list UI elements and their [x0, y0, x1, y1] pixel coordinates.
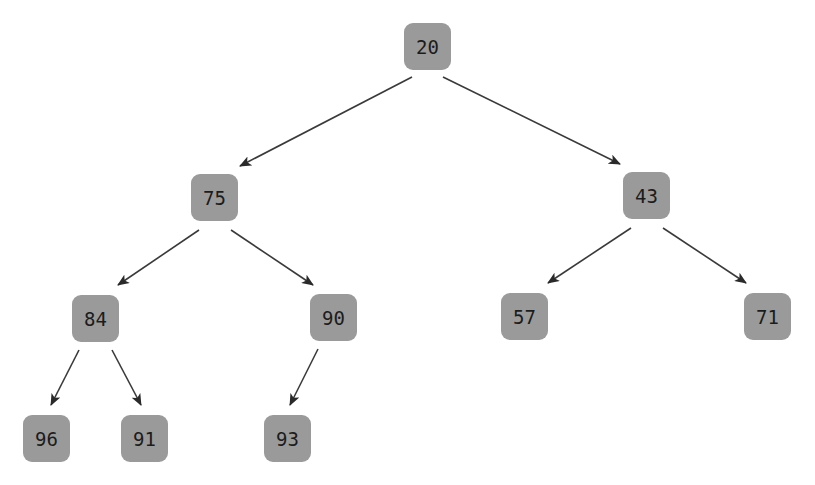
- tree-node-71: 71: [744, 293, 791, 340]
- edge-arrow-20-43: [443, 77, 620, 164]
- tree-node-93: 93: [264, 415, 311, 462]
- tree-node-20: 20: [404, 23, 451, 70]
- edge-arrow-75-84: [118, 230, 199, 285]
- edge-arrow-90-93: [290, 349, 318, 405]
- edges-layer: [0, 0, 815, 485]
- edge-arrow-20-75: [240, 77, 412, 166]
- tree-diagram: 20 75 43 84 90 57 71 96 91 93: [0, 0, 815, 485]
- edge-arrow-84-96: [51, 350, 79, 405]
- tree-node-75: 75: [191, 174, 238, 221]
- tree-node-96: 96: [23, 415, 70, 462]
- tree-node-90: 90: [310, 294, 357, 341]
- edge-arrow-75-90: [231, 230, 313, 285]
- tree-node-84: 84: [72, 295, 119, 342]
- tree-node-91: 91: [121, 415, 168, 462]
- edge-arrow-43-57: [548, 228, 631, 283]
- edge-arrow-43-71: [663, 228, 746, 283]
- tree-node-57: 57: [501, 293, 548, 340]
- edge-arrow-84-91: [112, 350, 141, 405]
- tree-node-43: 43: [623, 172, 670, 219]
